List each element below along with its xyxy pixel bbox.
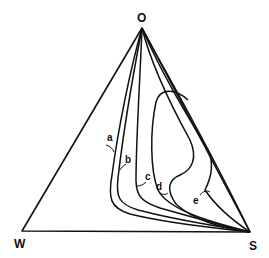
- curve-label-d: d: [156, 182, 162, 192]
- curve-label-c: c: [145, 172, 151, 182]
- curve-d-loop: [152, 91, 250, 232]
- vertex-label-w: W: [14, 238, 25, 250]
- curve-label-a: a: [107, 133, 113, 143]
- vertex-label-s: S: [249, 240, 257, 252]
- curve-label-e: e: [193, 196, 199, 206]
- curve-a: [110, 28, 250, 232]
- vertex-label-o: O: [137, 12, 146, 24]
- pointer-c: [137, 182, 146, 186]
- pointer-a: [106, 145, 114, 152]
- curve-label-b: b: [125, 155, 131, 165]
- diagram-canvas: [0, 0, 269, 258]
